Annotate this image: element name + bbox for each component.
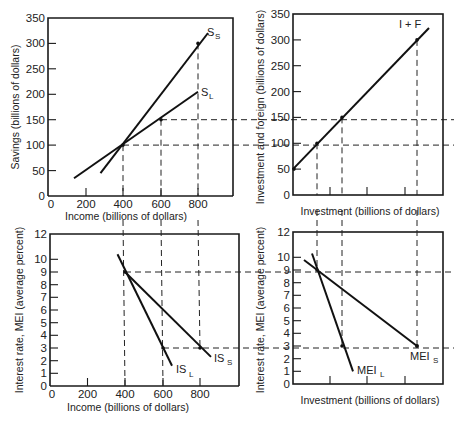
y-tick-9: 9 [41, 266, 47, 278]
y-tick-3: 3 [284, 340, 290, 352]
point-600-150 [159, 118, 163, 122]
y-tick-labels: 0 1 2 3 4 5 6 7 8 9 10 12 [277, 226, 290, 390]
y-axis-label: Savings (billions of dollars) [9, 45, 21, 170]
point-100 [315, 142, 319, 146]
y-tick-6: 6 [41, 304, 47, 316]
y-tick-250: 250 [271, 60, 290, 72]
y-tick-350: 350 [26, 12, 45, 24]
y-tick-7: 7 [41, 291, 47, 303]
x-tick-labels: 0 200 400 600 800 [48, 198, 208, 210]
y-tick-150: 150 [271, 111, 290, 123]
y-tick-0: 0 [284, 189, 290, 201]
plot-frame [293, 14, 443, 195]
y-tick-100: 100 [271, 137, 290, 149]
x-tick-800: 800 [190, 388, 209, 400]
four-panel-economic-diagram: 0 50 100 150 200 250 300 350 0 200 400 6… [0, 0, 454, 421]
point-mei-s-3 [415, 344, 419, 348]
y-ticks [293, 257, 301, 371]
y-tick-50: 50 [32, 165, 45, 177]
x-axis-label: Investment (billions of dollars) [301, 394, 440, 406]
guide-lines [317, 210, 417, 346]
point-150 [340, 116, 344, 120]
label-sl-sub: L [209, 92, 214, 101]
curve-i-plus-f [293, 28, 429, 169]
curve-mei-s [304, 260, 417, 346]
y-tick-7: 7 [284, 289, 290, 301]
x-axis-label: Investment (billions of dollars) [301, 205, 440, 217]
x-tick-200: 200 [76, 198, 95, 210]
y-tick-0: 0 [41, 380, 47, 392]
x-tick-600: 600 [153, 388, 172, 400]
y-ticks [50, 259, 58, 373]
x-ticks [330, 187, 405, 195]
point-800-3 [198, 346, 202, 350]
y-ticks [293, 40, 301, 169]
x-tick-400: 400 [113, 198, 132, 210]
x-tick-0: 0 [48, 198, 54, 210]
y-tick-150: 150 [26, 114, 45, 126]
y-tick-5: 5 [41, 317, 47, 329]
point-mei-l-3 [340, 344, 344, 348]
x-tick-800: 800 [188, 198, 207, 210]
point-400-100 [121, 143, 125, 147]
y-tick-2: 2 [284, 353, 290, 365]
y-tick-250: 250 [26, 63, 45, 75]
y-tick-labels: 0 50 100 150 200 250 300 350 [271, 8, 290, 201]
y-tick-300: 300 [26, 37, 45, 49]
label-is-l-sub: L [189, 370, 194, 379]
label-mei-s-sub: S [433, 356, 438, 365]
label-is-l: IS [176, 363, 186, 375]
y-tick-200: 200 [271, 86, 290, 98]
y-tick-6: 6 [284, 302, 290, 314]
y-tick-4: 4 [41, 329, 48, 341]
x-ticks [330, 376, 405, 384]
y-tick-12: 12 [277, 226, 290, 238]
y-tick-200: 200 [26, 88, 45, 100]
x-axis-label: Income (billions of dollars) [67, 401, 189, 413]
y-tick-3: 3 [41, 342, 47, 354]
y-tick-100: 100 [26, 139, 45, 151]
point-50 [292, 167, 296, 171]
x-tick-labels: 0 200 400 600 800 [49, 388, 210, 400]
label-mei-s: MEI [410, 350, 430, 362]
y-tick-0: 0 [284, 378, 290, 390]
y-tick-2: 2 [41, 355, 47, 367]
y-axis-label: Interest rate, MEI (average percent) [254, 227, 266, 393]
label-is-s: IS [214, 352, 224, 364]
x-tick-600: 600 [151, 198, 170, 210]
y-tick-8: 8 [41, 279, 47, 291]
point-300 [415, 38, 419, 42]
x-axis-label: Income (billions of dollars) [65, 210, 187, 222]
y-ticks [48, 43, 56, 170]
panel-savings-income: 0 50 100 150 200 250 300 350 0 200 400 6… [9, 12, 454, 222]
label-mei-l-sub: L [380, 370, 385, 379]
y-axis-label: Interest rate, MEI (average percent) [13, 227, 25, 393]
panel-mei-curves: 0 1 2 3 4 5 6 7 8 9 10 12 Investment (bi… [254, 210, 443, 406]
y-tick-50: 50 [277, 163, 290, 175]
y-tick-labels: 0 1 2 3 4 5 6 7 8 9 10 12 [34, 228, 47, 392]
label-sl: S [201, 86, 208, 98]
curve-ss [101, 33, 209, 173]
label-mei-l: MEI [357, 364, 377, 376]
panel-investment-foreign: 0 50 100 150 200 250 300 350 Investment … [254, 8, 443, 217]
y-tick-9: 9 [284, 264, 290, 276]
y-tick-10: 10 [277, 251, 290, 263]
y-tick-300: 300 [271, 34, 290, 46]
label-ss: S [207, 26, 214, 38]
x-ticks [88, 378, 201, 386]
y-tick-0: 0 [39, 190, 45, 202]
y-tick-1: 1 [41, 367, 47, 379]
guide-lines [317, 40, 417, 195]
plot-frame [48, 18, 233, 196]
y-tick-8: 8 [284, 277, 290, 289]
y-tick-12: 12 [34, 228, 47, 240]
y-tick-10: 10 [34, 253, 47, 265]
x-tick-200: 200 [78, 388, 97, 400]
curve-is-s [125, 272, 211, 357]
y-tick-4: 4 [284, 327, 291, 339]
y-tick-1: 1 [284, 365, 290, 377]
point-400-9 [123, 270, 127, 274]
y-tick-labels: 0 50 100 150 200 250 300 350 [26, 12, 45, 202]
point-9 [315, 268, 319, 272]
label-i-plus-f: I + F [399, 18, 422, 30]
